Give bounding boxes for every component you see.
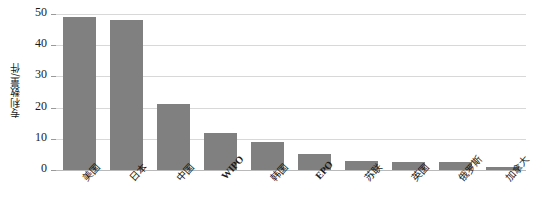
bar-slot [56, 14, 103, 170]
bar-slot [197, 14, 244, 170]
x-axis-label-slot: 中国 [150, 172, 197, 224]
bar-slot [291, 14, 338, 170]
bar-slot [432, 14, 479, 170]
y-axis-tick-label: 10 [35, 131, 47, 143]
y-axis-tick-label: 0 [41, 162, 47, 174]
x-axis-label-slot: 日本 [103, 172, 150, 224]
x-axis-label-slot: 英国 [385, 172, 432, 224]
bar-slot [150, 14, 197, 170]
bar-series [56, 14, 526, 170]
bar-slot [479, 14, 526, 170]
bar[interactable] [63, 17, 96, 170]
x-axis-label-slot: 美国 [56, 172, 103, 224]
bar-slot [103, 14, 150, 170]
bar-slot [338, 14, 385, 170]
y-axis-tick-label: 50 [35, 6, 47, 18]
plot-area [56, 14, 526, 170]
bar-slot [385, 14, 432, 170]
bar[interactable] [110, 20, 143, 170]
y-axis-ticks: 01020304050 [0, 14, 56, 170]
x-axis-label-slot: EPO [291, 172, 338, 224]
x-axis-label-slot: 韩国 [244, 172, 291, 224]
x-axis-label-slot: 加拿大 [479, 172, 526, 224]
chart-figure: 专利数量/件 01020304050 美国日本中国WIPO韩国EPO苏联英国俄罗… [0, 0, 545, 224]
x-axis-label-slot: 苏联 [338, 172, 385, 224]
x-axis-label-slot: WIPO [197, 172, 244, 224]
y-axis-tick-label: 40 [35, 37, 47, 49]
bar-slot [244, 14, 291, 170]
x-axis-labels: 美国日本中国WIPO韩国EPO苏联英国俄罗斯加拿大 [56, 172, 526, 224]
y-axis-tick-label: 30 [35, 68, 47, 80]
y-axis-tick-label: 20 [35, 100, 47, 112]
x-axis-label-slot: 俄罗斯 [432, 172, 479, 224]
